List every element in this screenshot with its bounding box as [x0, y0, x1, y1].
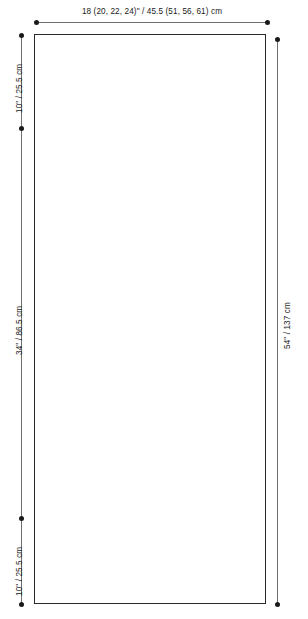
- left-dimension-label-middle: 34" / 86.5 cm: [16, 306, 24, 355]
- top-dimension-label: 18 (20, 22, 24)" / 45.5 (51, 56, 61) cm: [36, 8, 268, 16]
- right-dimension-line: [277, 39, 278, 604]
- garment-schematic-diagram: 18 (20, 22, 24)" / 45.5 (51, 56, 61) cm …: [0, 0, 308, 619]
- top-dimension-dot-right: [265, 20, 270, 25]
- left-dimension-label-top: 10" / 25.5 cm: [16, 64, 24, 113]
- left-dimension-dot-top: [19, 33, 24, 38]
- left-dimension-dot-bottom: [19, 602, 24, 607]
- right-dimension-dot-top: [275, 37, 280, 42]
- left-dimension-dot-lower-division: [19, 516, 24, 521]
- left-dimension-label-bottom: 10" / 25.5 cm: [16, 547, 24, 596]
- right-dimension-label: 54" / 137 cm: [284, 302, 292, 349]
- garment-panel-outline: [34, 34, 266, 604]
- right-dimension-dot-bottom: [275, 602, 280, 607]
- top-dimension-dot-left: [34, 20, 39, 25]
- top-dimension-line: [37, 22, 267, 23]
- left-dimension-dot-upper-division: [19, 126, 24, 131]
